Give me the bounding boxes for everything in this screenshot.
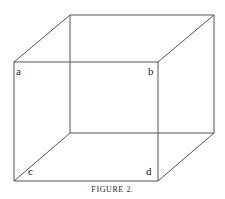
edge-connector-bottom-right: [158, 133, 214, 181]
vertex-label-d: d: [146, 166, 152, 177]
figure-container: a b c d FIGURE 2.: [0, 0, 225, 199]
edge-connector-bottom-left: [14, 133, 70, 181]
edge-connector-top-left: [14, 15, 70, 62]
edge-connector-top-right: [158, 15, 214, 62]
figure-caption: FIGURE 2.: [0, 185, 225, 194]
vertex-label-a: a: [16, 66, 21, 77]
cube-wireframe-diagram: [0, 0, 225, 199]
vertex-label-b: b: [148, 66, 154, 77]
vertex-label-c: c: [28, 166, 33, 177]
